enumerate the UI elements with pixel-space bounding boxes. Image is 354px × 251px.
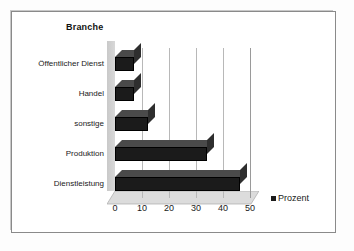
xtick-10: 10 xyxy=(137,203,147,213)
bar-dienstleistung[interactable] xyxy=(115,177,240,191)
bar-top-face xyxy=(115,140,214,147)
category-axis: Öffentlicher Dienst Handel sonstige Prod… xyxy=(0,48,104,198)
xtick-30: 30 xyxy=(191,203,201,213)
legend-label-prozent: Prozent xyxy=(278,193,309,203)
bar-side-face xyxy=(134,73,141,94)
bar-side-face xyxy=(207,133,214,154)
plot-area xyxy=(115,48,251,198)
value-axis: 0 10 20 30 40 50 xyxy=(115,203,265,217)
chart-title: Branche xyxy=(66,22,103,32)
category-label-dienstleistung: Dienstleistung xyxy=(54,179,104,188)
xtick-20: 20 xyxy=(164,203,174,213)
xtick-0: 0 xyxy=(112,203,117,213)
category-label-oeffentlicher-dienst: Öffentlicher Dienst xyxy=(38,59,104,68)
gridline-50 xyxy=(250,48,251,198)
bar-sonstige[interactable] xyxy=(115,117,148,131)
xtick-40: 40 xyxy=(218,203,228,213)
bar-oeffentlicher-dienst[interactable] xyxy=(115,57,134,71)
xtick-50: 50 xyxy=(245,203,255,213)
bar-side-face xyxy=(240,163,247,184)
category-label-produktion: Produktion xyxy=(66,149,104,158)
wall-left-face xyxy=(107,41,115,191)
chart-legend: Prozent xyxy=(271,193,309,203)
category-label-sonstige: sonstige xyxy=(74,119,104,128)
category-label-handel: Handel xyxy=(79,89,104,98)
bar-top-face xyxy=(115,170,247,177)
bar-handel[interactable] xyxy=(115,87,134,101)
chart-screenshot: Branche xyxy=(0,0,354,251)
bar-produktion[interactable] xyxy=(115,147,207,161)
legend-swatch-icon xyxy=(271,196,276,201)
bar-side-face xyxy=(148,103,155,124)
